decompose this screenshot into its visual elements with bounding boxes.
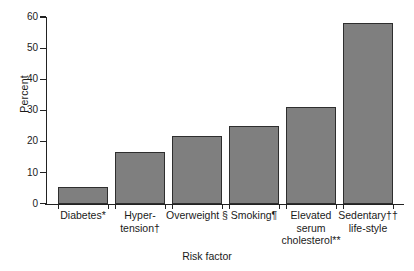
y-tick-label: 10 (16, 168, 38, 178)
y-tick-label: 20 (16, 136, 38, 146)
x-tick-mark (172, 205, 173, 209)
x-tick-mark (279, 205, 280, 209)
bar (58, 187, 108, 204)
plot-area (46, 17, 404, 204)
category-label: Sedentary†† life-style (329, 209, 407, 234)
y-tick-label: 30 (16, 105, 38, 115)
x-tick-mark (222, 205, 223, 209)
x-tick-mark (58, 205, 59, 209)
x-tick-mark (343, 205, 344, 209)
y-axis-title: Percent (18, 49, 30, 139)
x-axis-title: Risk factor (0, 250, 414, 262)
x-tick-mark (165, 205, 166, 209)
x-tick-mark (286, 205, 287, 209)
x-tick-mark (115, 205, 116, 209)
x-tick-mark (229, 205, 230, 209)
x-tick-mark (108, 205, 109, 209)
y-tick-label: 60 (16, 12, 38, 22)
bar (343, 23, 393, 204)
bar (229, 126, 279, 204)
bar (115, 152, 165, 204)
y-tick-label: 50 (16, 43, 38, 53)
x-tick-mark (393, 205, 394, 209)
bar (286, 107, 336, 204)
x-tick-mark (336, 205, 337, 209)
bar (172, 136, 222, 204)
y-tick-label: 0 (16, 199, 38, 209)
y-tick-label: 40 (16, 74, 38, 84)
bar-chart-figure: Percent 0102030405060 Diabetes*Hyper- te… (0, 0, 414, 271)
